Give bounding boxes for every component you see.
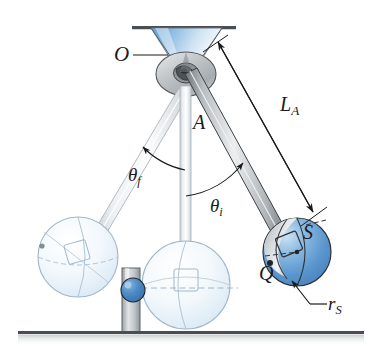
- label-theta-f-base: θ: [128, 164, 137, 185]
- sphere-rest: [132, 241, 238, 329]
- label-pivot-O: O: [114, 44, 129, 65]
- ground-line: [18, 333, 364, 346]
- label-contact-point-Q: Q: [259, 263, 273, 283]
- label-sphere-radius-rS: rS: [328, 294, 342, 317]
- label-angle-initial: θi: [210, 196, 223, 219]
- label-theta-i-subscript: i: [219, 205, 222, 219]
- label-sphere-S: S: [303, 222, 313, 242]
- post-ball: [121, 278, 145, 302]
- label-rod-length-LA: LA: [280, 94, 299, 117]
- label-rod-A: A: [193, 112, 205, 132]
- label-theta-i-base: θ: [210, 195, 219, 216]
- sphere-final: [38, 217, 118, 297]
- angle-arc-initial: [186, 163, 243, 196]
- label-angle-final: θf: [128, 165, 141, 188]
- label-theta-f-subscript: f: [137, 174, 140, 188]
- label-LA-subscript: A: [291, 103, 299, 118]
- figure-canvas: [0, 0, 380, 359]
- rod-initial: [185, 68, 287, 239]
- label-rS-subscript: S: [335, 303, 341, 317]
- pendulum-figure: O A LA θf θi S Q rS: [0, 0, 380, 359]
- label-LA-base: L: [280, 93, 291, 115]
